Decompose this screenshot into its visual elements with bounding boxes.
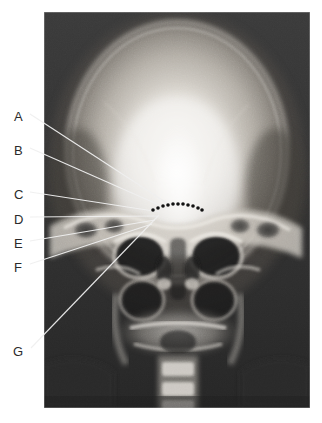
annotation-label-a: A bbox=[14, 110, 23, 123]
annotation-label-c: C bbox=[14, 188, 24, 201]
annotation-label-g: G bbox=[13, 345, 23, 358]
xray-image bbox=[44, 12, 310, 408]
annotation-label-b: B bbox=[14, 144, 23, 157]
annotation-label-f: F bbox=[14, 261, 22, 274]
annotation-label-d: D bbox=[14, 213, 24, 226]
annotation-label-e: E bbox=[14, 237, 23, 250]
annotated-radiograph-figure: A B C D E F G bbox=[0, 0, 322, 423]
xray-plate bbox=[44, 12, 310, 408]
